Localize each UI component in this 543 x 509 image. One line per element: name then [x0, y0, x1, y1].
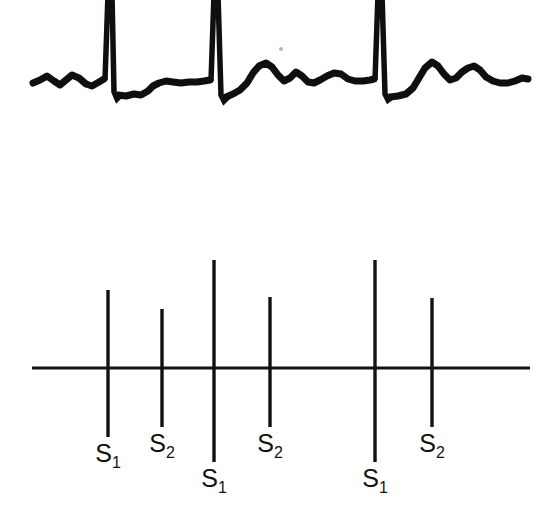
- timing-label-s1: S1: [362, 464, 388, 496]
- ecg-r-spike-1: [105, 0, 121, 99]
- timing-label-s2: S2: [419, 429, 445, 461]
- ecg-segment-cycle-2: [226, 63, 374, 97]
- ecg-panel: [0, 0, 543, 130]
- heart-sound-timing-graphic: S1 S2 S1 S2 S1: [0, 240, 543, 509]
- ecg-trace-graphic: [0, 0, 543, 130]
- ecg-r-spike-3: [375, 0, 392, 100]
- figure-root: S1 S2 S1 S2 S1: [0, 0, 543, 509]
- timing-label-s1: S1: [95, 439, 121, 471]
- ecg-segment-cycle-1: [118, 80, 210, 96]
- timing-event-s1-beat3: S1: [362, 260, 388, 496]
- ecg-segment-lead-in: [33, 75, 104, 86]
- timing-event-s2-beat2: S2: [257, 297, 283, 461]
- timing-label-s1: S1: [201, 464, 227, 496]
- timing-event-s1-beat1: S1: [95, 290, 121, 471]
- ecg-r-spike-2: [211, 0, 228, 101]
- scan-artifact-speck: [279, 47, 283, 51]
- ecg-segment-cycle-3: [390, 62, 528, 97]
- timing-label-s2: S2: [149, 429, 175, 461]
- timing-event-s1-beat2: S1: [201, 260, 227, 496]
- timing-event-s2-beat3: S2: [419, 298, 445, 461]
- heart-sound-timing-panel: S1 S2 S1 S2 S1: [0, 240, 543, 509]
- timing-event-s2-beat1: S2: [149, 309, 175, 461]
- timing-label-s2: S2: [257, 429, 283, 461]
